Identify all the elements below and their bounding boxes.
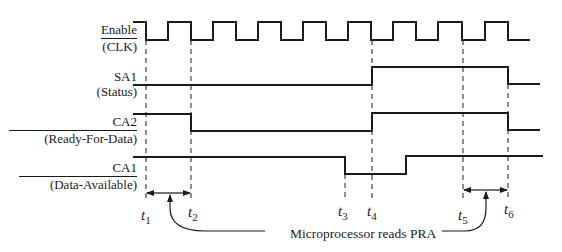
ca1-waveform (133, 156, 543, 174)
t1-label: t1 (141, 208, 151, 228)
microprocessor-reads-pra-caption: Microprocessor reads PRA (290, 226, 436, 241)
enable-clk-waveform (133, 22, 530, 40)
timing-diagram (0, 0, 562, 252)
ca2-waveform (133, 113, 540, 131)
t3-label: t3 (338, 204, 348, 224)
t6-label: t6 (504, 202, 514, 222)
t4-label: t4 (367, 204, 377, 224)
t5-label: t5 (458, 208, 468, 228)
sa1-waveform (133, 67, 540, 85)
t2-label: t2 (188, 205, 198, 225)
left-callout-curve (170, 195, 265, 231)
